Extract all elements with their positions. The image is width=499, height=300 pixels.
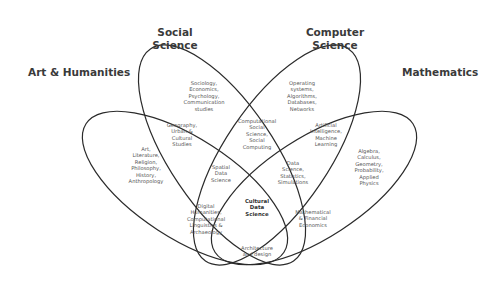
region-art-cs: Digital Humanities, Computational Lingui… — [187, 203, 225, 235]
set-title-mathematics: Mathematics — [402, 66, 478, 79]
region-all-cultural-data-science: Cultural Data Science — [245, 198, 269, 217]
ellipse-mathematics — [188, 82, 440, 294]
region-cs-math: Artificial Intelligence, Machine Learnin… — [310, 122, 342, 148]
region-art-social-cs: Spatial Data Science — [211, 164, 231, 183]
region-cs-only: Operating systems, Algorithms, Databases… — [287, 80, 317, 112]
region-social-math: Mathematical & Financial Economics — [295, 209, 330, 228]
region-art-only: Art, Literature, Religion, Philosophy, H… — [129, 146, 164, 184]
set-title-computer-science: Computer Science — [305, 26, 365, 52]
region-social-cs: Computational Social Science, Social Com… — [238, 118, 276, 150]
region-math-only: Algebra, Calculus, Geometry, Probability… — [354, 148, 383, 186]
set-title-art-humanities: Art & Humanities — [28, 66, 130, 79]
set-title-social-science: Social Science — [150, 26, 200, 52]
region-social-cs-math: Data Science, Statistics, Simulations — [278, 160, 308, 186]
region-art-social: Geography, Urban & Cultural Studies — [167, 122, 197, 148]
ellipse-art-humanities — [59, 82, 311, 294]
region-social-only: Sociology, Economics, Psychology, Commun… — [184, 80, 225, 112]
region-art-math: Architecture and design — [241, 245, 273, 258]
